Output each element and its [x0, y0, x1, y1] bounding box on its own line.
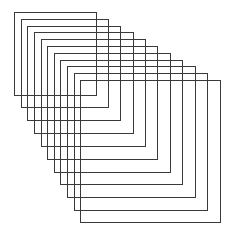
square-outline-4	[35, 33, 134, 134]
nested-squares-drawing	[0, 0, 231, 234]
square-outline-7	[55, 54, 171, 173]
square-outline-9	[68, 67, 196, 198]
square-outline-6	[48, 47, 158, 160]
square-outline-11	[81, 81, 221, 223]
square-outline-8	[61, 61, 183, 185]
diagram-canvas	[0, 0, 231, 234]
square-outline-10	[75, 74, 208, 211]
square-outline-5	[42, 40, 146, 147]
